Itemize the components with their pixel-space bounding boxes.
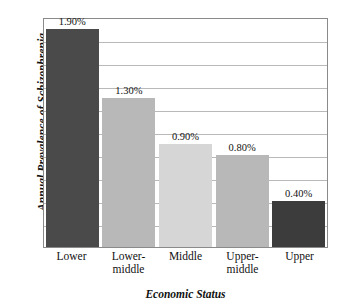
bar-value-label: 0.80%: [229, 142, 256, 153]
bar[interactable]: 0.80%: [216, 155, 269, 247]
x-tick-label-line: Middle: [157, 250, 214, 263]
bar[interactable]: 0.40%: [272, 201, 325, 247]
bar-value-label: 0.90%: [172, 131, 199, 142]
x-tick-label-line: Lower: [43, 250, 100, 263]
bar-slot: 1.90%: [44, 19, 101, 247]
x-axis-title: Economic Status: [43, 288, 328, 300]
bar-slot: 0.90%: [157, 19, 214, 247]
x-axis-tick-labels: LowerLower-middleMiddleUpper-middleUpper: [43, 250, 328, 276]
plot-area: 1.90%1.30%0.90%0.80%0.40%: [43, 18, 328, 248]
bar-series: 1.90%1.30%0.90%0.80%0.40%: [44, 19, 327, 247]
x-tick-label: Upper: [271, 250, 328, 276]
x-tick-label-line: middle: [214, 263, 271, 276]
bar[interactable]: 1.90%: [46, 29, 99, 248]
x-tick-label: Lower: [43, 250, 100, 276]
bar-value-label: 0.40%: [285, 188, 312, 199]
bar-chart-figure: Annual Prevalence of Schizophrenia 1.90%…: [0, 0, 348, 308]
bar-slot: 0.80%: [214, 19, 271, 247]
bar-slot: 1.30%: [101, 19, 158, 247]
x-tick-label-line: Upper: [271, 250, 328, 263]
x-tick-label: Upper-middle: [214, 250, 271, 276]
bar-slot: 0.40%: [270, 19, 327, 247]
x-tick-label: Lower-middle: [100, 250, 157, 276]
x-tick-label: Middle: [157, 250, 214, 276]
bar-value-label: 1.30%: [115, 85, 142, 96]
bar-value-label: 1.90%: [59, 16, 86, 27]
bar[interactable]: 0.90%: [159, 144, 212, 248]
bar[interactable]: 1.30%: [102, 98, 155, 248]
x-tick-label-line: middle: [100, 263, 157, 276]
x-tick-label-line: Upper-: [214, 250, 271, 263]
x-tick-label-line: Lower-: [100, 250, 157, 263]
